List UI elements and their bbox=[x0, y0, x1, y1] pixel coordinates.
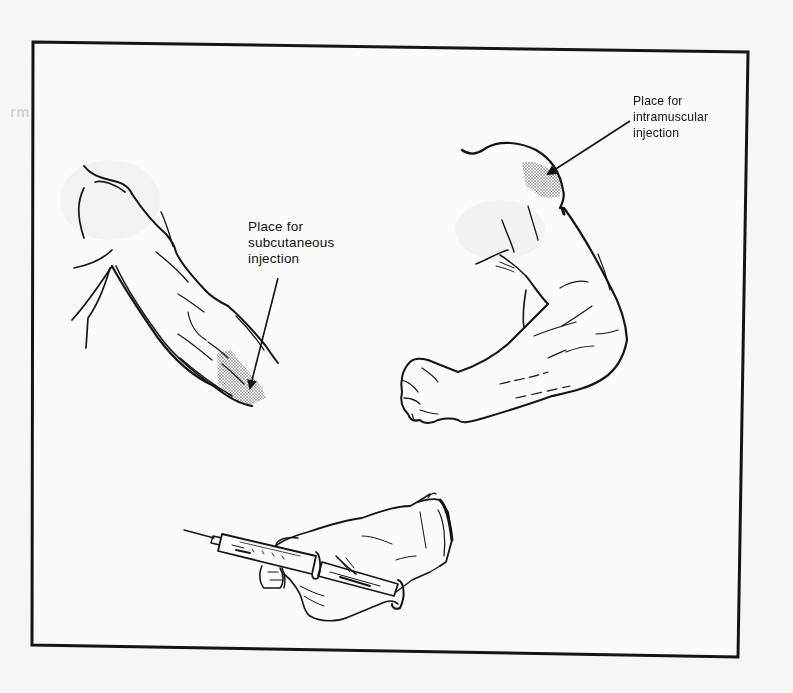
subcutaneous-label-line2: subcutaneous bbox=[248, 235, 334, 251]
intramuscular-label-line1: Place for bbox=[633, 93, 708, 109]
subcutaneous-label: Place for subcutaneous injection bbox=[248, 219, 334, 267]
intramuscular-label-line3: injection bbox=[633, 125, 708, 141]
subcutaneous-label-line3: injection bbox=[248, 251, 334, 267]
intramuscular-label-line2: intramuscular bbox=[633, 109, 708, 125]
figure-page: row's bandages on different parts of the… bbox=[0, 0, 793, 693]
intramuscular-label: Place for intramuscular injection bbox=[633, 93, 708, 141]
subcutaneous-label-line1: Place for bbox=[248, 219, 334, 235]
